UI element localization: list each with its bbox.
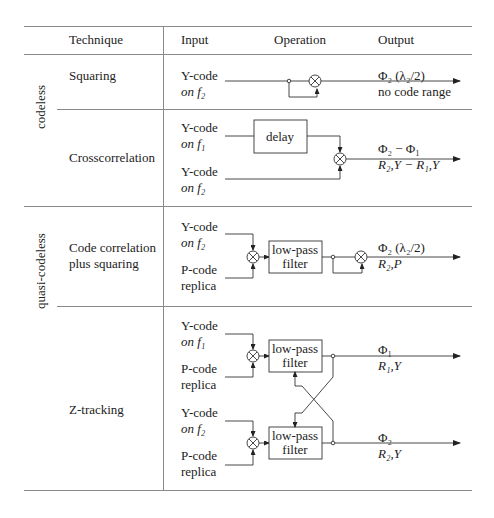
lpf-label-line2: filter (282, 442, 308, 457)
squaring-diagram (225, 75, 460, 97)
mixer-icon (334, 153, 346, 165)
z-tracking-diagram (225, 334, 460, 465)
mixer-icon (355, 251, 367, 263)
mixer-icon (247, 350, 259, 362)
lpf-label-line1: low-pass (272, 428, 318, 443)
mixer-icon (247, 251, 259, 263)
crosscorrelation-diagram (225, 120, 460, 179)
lpf-label-line2: filter (282, 256, 308, 271)
signal-flow-diagrams: delay low-pass filter low-pass filter lo… (0, 0, 494, 518)
mixer-icon (247, 437, 259, 449)
code-correlation-diagram (225, 234, 460, 278)
delay-label: delay (266, 129, 295, 144)
mixer-icon (309, 75, 321, 87)
lpf-label-line2: filter (282, 355, 308, 370)
lpf-label-line1: low-pass (272, 242, 318, 257)
lpf-label-line1: low-pass (272, 341, 318, 356)
